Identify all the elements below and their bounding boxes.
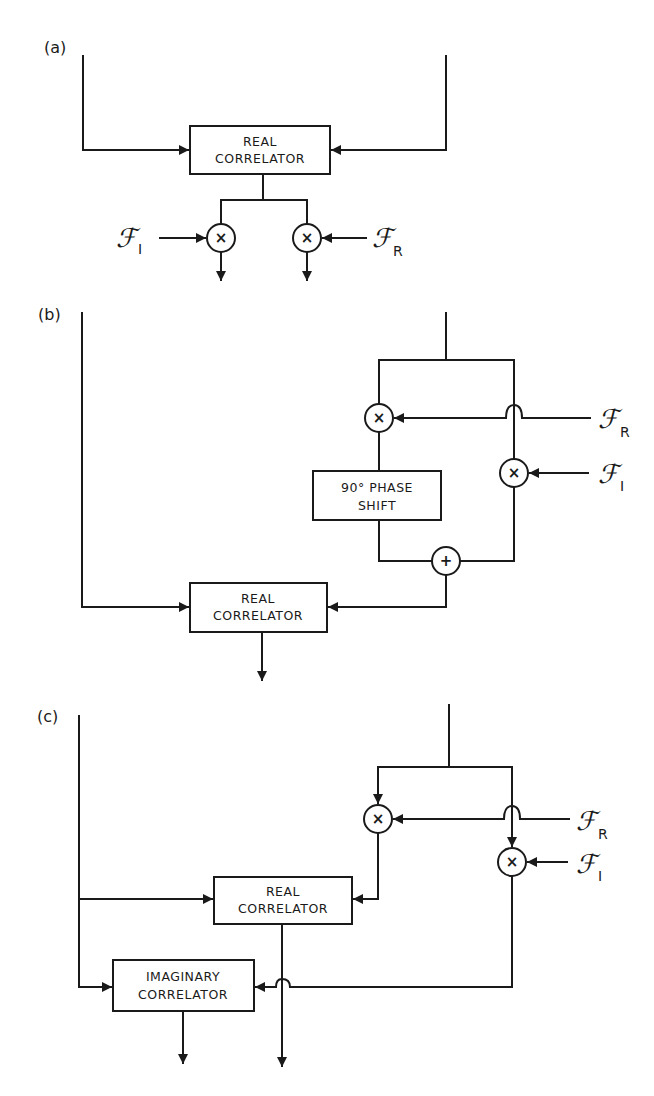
muli-to-sum-wire [460, 487, 514, 561]
sum-to-correlator-wire [329, 575, 446, 607]
phase-to-sum-wire [379, 520, 432, 561]
multiplier-node-i: × [498, 848, 526, 876]
phase-shift-block: 90° PHASE SHIFT [313, 471, 441, 520]
summing-node: + [432, 547, 460, 575]
imaginary-correlator-block: IMAGINARY CORRELATOR [113, 960, 254, 1011]
multiplier-node-r: × [364, 805, 392, 833]
block-label-line1: REAL [241, 591, 275, 606]
panel-c: (c) × ℱ R × ℱ I [37, 705, 608, 1066]
block-label-line2: SHIFT [358, 498, 396, 513]
multiply-icon: × [373, 409, 386, 427]
correlator-diagram: (a) REAL CORRELATOR × ℱ I × [0, 0, 654, 1096]
multiply-icon: × [301, 229, 314, 247]
panel-label-b: (b) [38, 305, 61, 324]
fourier-real-symbol: ℱ R [576, 806, 608, 842]
panel-a: (a) REAL CORRELATOR × ℱ I × [44, 38, 446, 280]
multiply-icon: × [508, 464, 521, 482]
svg-text:R: R [620, 424, 630, 440]
multiplier-node-r: × [293, 224, 321, 252]
svg-text:R: R [393, 243, 403, 259]
left-input-wire [82, 313, 188, 607]
real-correlator-block: REAL CORRELATOR [214, 877, 352, 924]
panel-label-a: (a) [44, 38, 66, 57]
right-input-wire [332, 56, 446, 150]
fourier-imag-symbol: ℱ I [576, 849, 602, 884]
multiplier-node-i: × [500, 459, 528, 487]
fourier-imag-symbol: ℱ I [598, 459, 624, 494]
svg-text:I: I [620, 478, 624, 494]
fr-input-wire-with-crossover [394, 806, 569, 819]
svg-text:R: R [598, 826, 608, 842]
fourier-real-symbol: ℱ R [598, 404, 630, 440]
multiply-icon: × [506, 853, 519, 871]
multiply-icon: × [372, 810, 385, 828]
block-label-line1: REAL [266, 884, 300, 899]
block-label-line1: REAL [243, 134, 277, 149]
multiplier-node-i: × [207, 224, 235, 252]
svg-text:I: I [598, 868, 602, 884]
split-to-muli-wire [378, 767, 512, 846]
fourier-real-symbol: ℱ R [372, 223, 403, 259]
multiplier-node-r: × [365, 404, 393, 432]
block-label-line1: 90° PHASE [341, 480, 413, 495]
block-label-line2: CORRELATOR [238, 901, 328, 916]
panel-label-c: (c) [37, 707, 58, 726]
block-label-line2: CORRELATOR [215, 151, 305, 166]
mulr-to-real-wire [354, 833, 378, 899]
block-label-line2: CORRELATOR [138, 987, 228, 1002]
fr-input-wire-with-crossover [395, 405, 590, 418]
left-input-wire [83, 56, 188, 150]
output-split-wire [221, 200, 307, 224]
svg-text:I: I [138, 241, 142, 257]
block-label-line1: IMAGINARY [146, 969, 220, 984]
panel-b: (b) × ℱ R × ℱ I 90° PHASE [38, 305, 630, 680]
top-split-wire [379, 360, 514, 459]
multiply-icon: × [215, 229, 228, 247]
fourier-imag-symbol: ℱ I [116, 223, 142, 257]
real-correlator-block: REAL CORRELATOR [190, 583, 327, 632]
left-input-to-imag-wire [79, 716, 111, 987]
block-label-line2: CORRELATOR [213, 608, 303, 623]
plus-icon: + [440, 552, 453, 570]
real-correlator-block: REAL CORRELATOR [190, 126, 330, 174]
